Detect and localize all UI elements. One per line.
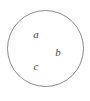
- element-label-a: a: [33, 29, 39, 40]
- set-circle: [8, 11, 84, 87]
- set-diagram-figure: a b c: [0, 0, 90, 101]
- element-label-b: b: [55, 47, 61, 58]
- element-label-c: c: [34, 61, 39, 72]
- set-diagram-svg: [0, 0, 90, 101]
